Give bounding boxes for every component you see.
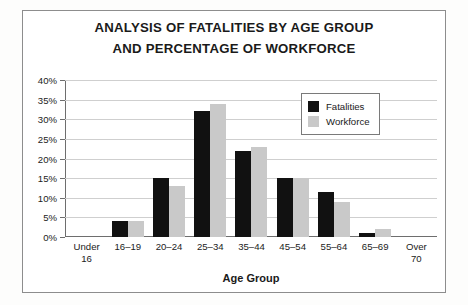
y-axis-tick [60, 178, 65, 179]
legend-label-workforce: Workforce [326, 116, 370, 127]
x-axis-tick-label: 35–44 [231, 241, 272, 264]
legend-label-fatalities: Fatalities [326, 101, 364, 112]
bar-group [148, 80, 189, 237]
y-axis-tick-label: 40% [38, 75, 57, 86]
y-axis-tick-label: 10% [38, 192, 57, 203]
bar-fatalities [112, 221, 128, 237]
bar-fatalities [359, 233, 375, 237]
legend-item-fatalities: Fatalities [308, 99, 370, 114]
x-axis-tick-label: 20–24 [148, 241, 189, 264]
bar-fatalities [235, 151, 251, 237]
x-axis-tick-labels: Under1616–1920–2425–3435–4445–5455–6465–… [66, 241, 437, 264]
y-axis-tick [60, 119, 65, 120]
bar-workforce [210, 104, 226, 237]
y-axis-tick [60, 159, 65, 160]
bar-workforce [375, 229, 391, 237]
bar-group [190, 80, 231, 237]
x-axis-tick-label: Under16 [66, 241, 107, 264]
x-axis-tick-label: 55–64 [313, 241, 354, 264]
bar-workforce [293, 178, 309, 237]
bar-group [396, 80, 437, 237]
y-axis-tick-label: 0% [43, 232, 57, 243]
bar-group [107, 80, 148, 237]
chart-title-line-2: AND PERCENTAGE OF WORKFORCE [22, 38, 446, 59]
bar-group [231, 80, 272, 237]
y-axis-tick [60, 80, 65, 81]
bar-fatalities [153, 178, 169, 237]
x-axis-tick-label: 16–19 [107, 241, 148, 264]
y-axis-tick-label: 15% [38, 173, 57, 184]
bar-fatalities [277, 178, 293, 237]
chart-title: ANALYSIS OF FATALITIES BY AGE GROUP AND … [22, 17, 446, 59]
bar-fatalities [318, 192, 334, 237]
y-axis-tick-label: 20% [38, 153, 57, 164]
y-axis-tick-label: 30% [38, 114, 57, 125]
bar-workforce [251, 147, 267, 237]
legend-swatch-workforce [308, 116, 319, 127]
bar-group [66, 80, 107, 237]
x-axis-tick-label: 25–34 [190, 241, 231, 264]
plot-area: 40%35%30%25%20%15%10%5%0% [65, 80, 437, 237]
x-axis-tick-label: Over70 [396, 241, 437, 264]
y-axis-tick [60, 139, 65, 140]
bar-workforce [334, 202, 350, 237]
legend-swatch-fatalities [308, 101, 319, 112]
y-axis-tick [60, 217, 65, 218]
x-axis-tick-label: 65–69 [355, 241, 396, 264]
x-axis-tick-label: 45–54 [272, 241, 313, 264]
y-axis-tick-label: 5% [43, 212, 57, 223]
y-axis-tick-label: 35% [38, 94, 57, 105]
y-axis-tick [60, 237, 65, 238]
bar-workforce [128, 221, 144, 237]
legend-item-workforce: Workforce [308, 114, 370, 129]
bar-fatalities [194, 111, 210, 237]
bar-groups [66, 80, 437, 237]
y-axis-tick-label: 25% [38, 133, 57, 144]
chart-legend: Fatalities Workforce [301, 93, 380, 135]
y-axis-tick [60, 198, 65, 199]
chart-title-line-1: ANALYSIS OF FATALITIES BY AGE GROUP [95, 20, 374, 35]
y-axis-tick [60, 100, 65, 101]
bar-workforce [169, 186, 185, 237]
x-axis-title: Age Group [65, 272, 437, 284]
chart-figure: ANALYSIS OF FATALITIES BY AGE GROUP AND … [0, 0, 468, 305]
